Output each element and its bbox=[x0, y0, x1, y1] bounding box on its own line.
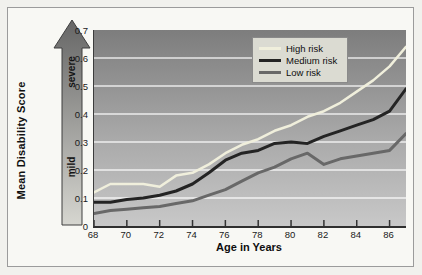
x-tick-label: 82 bbox=[311, 229, 335, 240]
y-tick-label: 0.4 bbox=[62, 109, 88, 120]
legend-label: Medium risk bbox=[286, 55, 337, 66]
severe-label: severe bbox=[66, 32, 78, 112]
x-axis-title: Age in Years bbox=[189, 241, 309, 253]
x-tick-label: 70 bbox=[114, 229, 138, 240]
series-line-low-risk bbox=[94, 134, 406, 214]
x-tick-label: 76 bbox=[212, 229, 236, 240]
y-tick-label: 0.2 bbox=[62, 165, 88, 176]
legend-label: Low risk bbox=[286, 67, 321, 78]
y-tick-label: 0.7 bbox=[62, 25, 88, 36]
x-tick-label: 78 bbox=[245, 229, 269, 240]
y-tick-label: 0.5 bbox=[62, 81, 88, 92]
x-tick-label: 84 bbox=[344, 229, 368, 240]
legend-item: Medium risk bbox=[259, 54, 342, 66]
x-tick-label: 86 bbox=[377, 229, 401, 240]
legend-swatch-medium-risk bbox=[259, 59, 281, 62]
x-tick-label: 68 bbox=[81, 229, 105, 240]
y-tick-label: 0.3 bbox=[62, 137, 88, 148]
y-tick-label: 0.1 bbox=[62, 193, 88, 204]
plot-area bbox=[93, 30, 406, 228]
legend-swatch-high-risk bbox=[259, 47, 281, 50]
x-tick-label: 80 bbox=[278, 229, 302, 240]
legend-label: High risk bbox=[286, 43, 323, 54]
y-tick-label: 0.6 bbox=[62, 53, 88, 64]
legend: High risk Medium risk Low risk bbox=[252, 37, 348, 83]
legend-item: High risk bbox=[259, 42, 342, 54]
chart-svg bbox=[94, 30, 406, 226]
y-axis-title: Mean Disability Score bbox=[15, 71, 28, 211]
x-tick-label: 74 bbox=[180, 229, 204, 240]
chart-figure: Mean Disability Score severe mild High r… bbox=[0, 0, 422, 275]
legend-item: Low risk bbox=[259, 66, 342, 78]
legend-swatch-low-risk bbox=[259, 71, 281, 74]
x-tick-label: 72 bbox=[147, 229, 171, 240]
